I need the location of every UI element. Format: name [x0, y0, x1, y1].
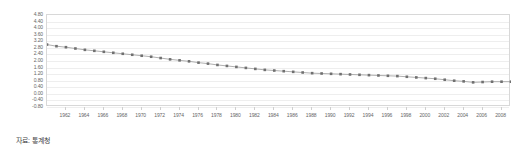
- x-axis-tick-label: 1966: [97, 113, 108, 118]
- x-axis-tick-label: 1996: [382, 113, 393, 118]
- x-axis-tick: [330, 107, 331, 110]
- data-point-marker: [510, 80, 511, 83]
- series-line: [47, 45, 511, 83]
- x-axis-tick-label: 1986: [287, 113, 298, 118]
- y-axis-tick-label: 1.20: [34, 71, 43, 76]
- data-point-marker: [415, 76, 418, 79]
- x-axis-tick-label: 2006: [476, 113, 487, 118]
- data-point-marker: [197, 61, 200, 64]
- data-point-marker: [320, 72, 323, 75]
- data-point-marker: [235, 66, 238, 69]
- x-axis-tick: [444, 107, 445, 110]
- x-axis-tick-label: 1972: [154, 113, 165, 118]
- x-axis-tick-label: 1984: [268, 113, 279, 118]
- x-axis-tick: [292, 107, 293, 110]
- x-axis-tick: [254, 107, 255, 110]
- chart-page: 4.804.404.003.603.202.802.402.001.601.20…: [0, 0, 527, 154]
- data-point-marker: [264, 69, 267, 72]
- x-axis-tick-label: 2002: [438, 113, 449, 118]
- x-axis-tick-label: 1992: [344, 113, 355, 118]
- data-point-marker: [406, 75, 409, 78]
- y-axis-tick-label: 2.80: [34, 44, 43, 49]
- data-point-marker: [368, 74, 371, 77]
- data-point-marker: [292, 71, 295, 74]
- data-point-marker: [159, 57, 162, 60]
- x-axis-tick: [387, 107, 388, 110]
- data-point-marker: [453, 79, 456, 82]
- data-point-marker: [65, 46, 68, 49]
- series-fertility-rate: [47, 15, 511, 107]
- line-chart: 4.804.404.003.603.202.802.402.001.601.20…: [0, 0, 527, 131]
- x-axis-tick: [103, 107, 104, 110]
- x-axis-tick: [368, 107, 369, 110]
- data-point-marker: [245, 67, 248, 70]
- data-point-marker: [330, 73, 333, 76]
- x-axis-tick: [122, 107, 123, 110]
- data-point-marker: [226, 65, 229, 68]
- x-axis-tick-label: 2008: [495, 113, 506, 118]
- x-axis-tick: [84, 107, 85, 110]
- data-point-marker: [169, 58, 172, 61]
- data-point-marker: [74, 47, 77, 50]
- x-axis-tick: [406, 107, 407, 110]
- x-axis-tick-label: 1990: [325, 113, 336, 118]
- data-point-marker: [396, 75, 399, 78]
- x-axis-tick: [198, 107, 199, 110]
- source-caption: 자료: 통계청: [16, 136, 50, 145]
- data-point-marker: [150, 55, 153, 58]
- y-axis-tick-label: 0.40: [34, 84, 43, 89]
- y-axis-tick-label: 3.60: [34, 31, 43, 36]
- data-point-marker: [178, 59, 181, 62]
- x-axis-tick-label: 1978: [211, 113, 222, 118]
- x-axis-tick: [425, 107, 426, 110]
- x-axis-tick-label: 1964: [79, 113, 90, 118]
- y-axis-tick-label: 2.00: [34, 58, 43, 63]
- data-point-marker: [131, 53, 134, 56]
- data-point-marker: [311, 72, 314, 75]
- x-axis-tick: [160, 107, 161, 110]
- data-point-marker: [387, 74, 390, 77]
- data-point-marker: [273, 69, 276, 72]
- data-point-marker: [339, 73, 342, 76]
- data-point-marker: [424, 77, 427, 80]
- data-point-marker: [254, 68, 257, 71]
- x-axis-tick: [235, 107, 236, 110]
- data-point-marker: [462, 80, 465, 83]
- y-axis-tick-label: 4.00: [34, 25, 43, 30]
- y-axis-tick-label: 4.40: [34, 18, 43, 23]
- y-axis-tick-label: 1.60: [34, 64, 43, 69]
- data-point-marker: [47, 43, 48, 46]
- x-axis-tick-label: 1970: [135, 113, 146, 118]
- data-point-marker: [377, 74, 380, 77]
- x-axis-tick: [349, 107, 350, 110]
- y-axis-tick-label: 0.80: [34, 77, 43, 82]
- data-point-marker: [481, 81, 484, 84]
- data-point-marker: [84, 49, 87, 52]
- data-point-marker: [282, 70, 285, 73]
- data-point-marker: [349, 73, 352, 76]
- x-axis-tick: [501, 107, 502, 110]
- x-axis-tick: [463, 107, 464, 110]
- data-point-marker: [93, 50, 96, 53]
- x-axis-tick-label: 1994: [363, 113, 374, 118]
- y-axis-tick-label: 0.00: [34, 90, 43, 95]
- x-axis-tick: [216, 107, 217, 110]
- x-axis-tick-label: 1976: [192, 113, 203, 118]
- y-axis-tick-label: 2.40: [34, 51, 43, 56]
- data-point-marker: [103, 51, 106, 54]
- data-point-marker: [500, 80, 503, 83]
- x-axis-tick: [141, 107, 142, 110]
- data-point-marker: [491, 80, 494, 83]
- data-point-marker: [112, 51, 115, 54]
- data-point-marker: [216, 64, 219, 67]
- x-axis: 1962196419661968197019721974197619781980…: [0, 107, 527, 127]
- data-point-marker: [140, 54, 143, 57]
- data-point-marker: [358, 74, 361, 77]
- y-axis-tick-label: 4.80: [34, 12, 43, 17]
- data-point-marker: [188, 60, 191, 63]
- x-axis-tick-label: 1982: [249, 113, 260, 118]
- x-axis-tick: [482, 107, 483, 110]
- x-axis-tick: [311, 107, 312, 110]
- data-point-marker: [472, 81, 475, 84]
- x-axis-tick-label: 1998: [400, 113, 411, 118]
